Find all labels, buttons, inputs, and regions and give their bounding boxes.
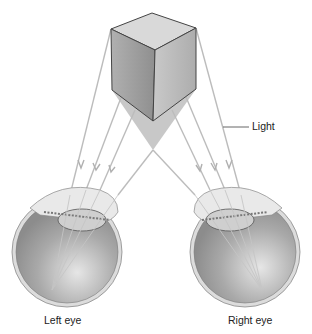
binocular-vision-diagram — [0, 0, 312, 334]
light-label: Light — [252, 120, 275, 132]
right-eye — [190, 187, 300, 307]
right-eye-label: Right eye — [228, 314, 272, 326]
left-eye-label: Left eye — [44, 314, 81, 326]
left-eye — [12, 187, 122, 307]
